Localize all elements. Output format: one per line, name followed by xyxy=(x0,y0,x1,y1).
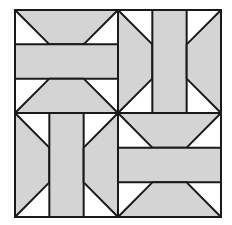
quadrant-top-right-center-strip xyxy=(152,10,186,113)
quadrant-bottom-right-center-strip xyxy=(118,148,221,183)
quilt-block-diagram xyxy=(0,0,232,225)
quadrant-top-left-center-strip xyxy=(15,44,118,78)
quadrant-bottom-left-center-strip xyxy=(49,113,83,217)
